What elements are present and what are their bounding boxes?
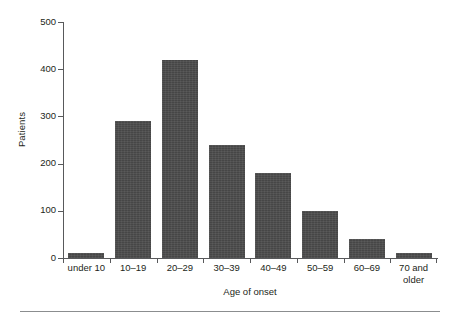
bar[interactable] <box>162 60 198 258</box>
x-axis-tick-label: 50–59 <box>297 262 344 274</box>
x-axis-tick-label: 40–49 <box>250 262 297 274</box>
y-axis-tick-label: 100 <box>40 204 56 215</box>
x-axis-tick-label: 60–69 <box>344 262 391 274</box>
x-axis-tick-label: 30–39 <box>203 262 250 274</box>
plot-area: 0100200300400500 <box>63 22 437 258</box>
y-axis-tick <box>58 164 63 165</box>
x-axis-tick-label: 70 and older <box>390 262 437 285</box>
bottom-divider <box>20 311 440 312</box>
x-axis-title: Age of onset <box>63 286 437 297</box>
y-axis-tick-label: 0 <box>51 252 56 263</box>
y-axis-tick <box>58 116 63 117</box>
x-axis-tick-label: under 10 <box>63 262 110 274</box>
y-axis-tick-label: 500 <box>40 16 56 27</box>
y-axis-title-text: Patients <box>17 111 28 146</box>
y-axis-tick <box>58 22 63 23</box>
y-axis-tick-label: 200 <box>40 157 56 168</box>
y-axis-tick-label: 300 <box>40 110 56 121</box>
x-axis-tick-label: 20–29 <box>157 262 204 274</box>
y-axis-tick <box>58 69 63 70</box>
y-axis-tick <box>58 211 63 212</box>
y-axis-tick-label: 400 <box>40 63 56 74</box>
bar[interactable] <box>255 173 291 258</box>
bar[interactable] <box>302 211 338 258</box>
bar[interactable] <box>396 253 432 258</box>
bar[interactable] <box>209 145 245 258</box>
y-axis-title: Patients <box>14 0 30 258</box>
bar[interactable] <box>349 239 385 258</box>
bar[interactable] <box>115 121 151 258</box>
bar-chart-figure: Patients 0100200300400500 Age of onset u… <box>0 0 456 323</box>
bar[interactable] <box>68 253 104 258</box>
x-axis-tick-label: 10–19 <box>110 262 157 274</box>
